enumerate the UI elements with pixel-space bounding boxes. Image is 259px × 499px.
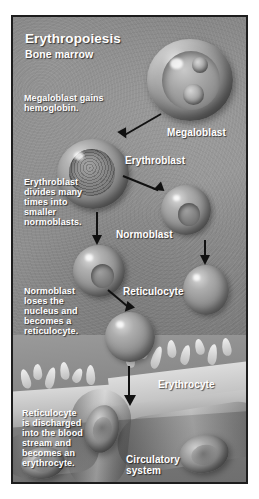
page-subtitle: Bone marrow bbox=[25, 49, 93, 61]
normoblast-cell-right bbox=[161, 185, 211, 235]
page-title: Erythropoiesis bbox=[25, 31, 121, 46]
highlight bbox=[85, 254, 93, 261]
stage-label-erythroblast: Erythroblast bbox=[125, 155, 185, 166]
caption-normoblast: Normoblast loses the nucleus and becomes… bbox=[24, 286, 78, 336]
caption-reticulocyte: Reticulocyte is discharged into the bloo… bbox=[22, 408, 83, 468]
caption-megaloblast: Megaloblast gains hemoglobin. bbox=[24, 93, 104, 113]
stage-label-megaloblast: Megaloblast bbox=[167, 127, 226, 138]
reticulocyte-cell-right bbox=[183, 265, 229, 315]
biconcave-dimple bbox=[91, 416, 113, 444]
normoblast-nucleus bbox=[178, 203, 200, 226]
highlight bbox=[170, 58, 183, 69]
arrowhead bbox=[124, 395, 136, 406]
arrowhead bbox=[200, 255, 210, 265]
normoblast-cell-left bbox=[73, 245, 125, 297]
erythropoiesis-figure: Erythropoiesis Bone marrow Megaloblast g… bbox=[0, 0, 259, 499]
highlight bbox=[193, 274, 200, 281]
stage-label-reticulocyte: Reticulocyte bbox=[123, 286, 184, 297]
caption-erythroblast: Erythroblast divides many times into sma… bbox=[24, 177, 82, 227]
nucleolus bbox=[183, 84, 204, 105]
reticulocyte-cell bbox=[105, 312, 155, 362]
illustration-frame: Erythropoiesis Bone marrow Megaloblast g… bbox=[11, 15, 248, 484]
highlight bbox=[116, 321, 124, 328]
biconcave-dimple bbox=[189, 442, 220, 467]
stage-label-normoblast: Normoblast bbox=[116, 229, 173, 240]
label-circulatory-system: Circulatory system bbox=[126, 454, 180, 476]
megaloblast-cell bbox=[147, 39, 233, 121]
arrowhead bbox=[92, 235, 102, 245]
highlight bbox=[173, 195, 181, 202]
normoblast-nucleus bbox=[91, 264, 114, 288]
stage-label-erythrocyte: Erythrocyte bbox=[158, 379, 215, 390]
